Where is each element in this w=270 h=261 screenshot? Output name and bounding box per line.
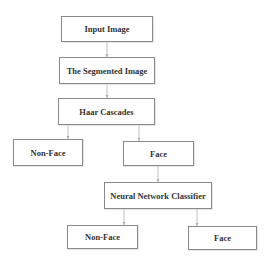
node-face-1: Face (123, 141, 194, 166)
node-non-face-1: Non-Face (13, 139, 83, 166)
node-neural-network-classifier: Neural Network Classifier (104, 182, 212, 209)
node-haar-cascades: Haar Cascades (58, 98, 155, 125)
node-face-2: Face (188, 226, 257, 250)
node-non-face-2: Non-Face (67, 225, 138, 249)
node-segmented-image: The Segmented Image (59, 57, 155, 84)
node-input-image: Input Image (61, 16, 153, 42)
